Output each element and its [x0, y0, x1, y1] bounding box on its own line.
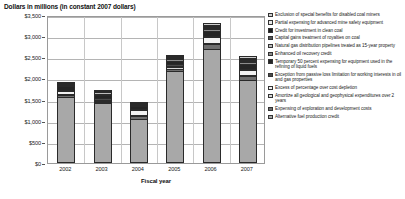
- y-axis-tick-label: $1,000: [24, 119, 41, 125]
- y-axis-tick-label: $3,500: [24, 13, 41, 19]
- bar-segment[interactable]: [239, 80, 257, 163]
- legend-item[interactable]: Temporary 50 percent expensing for equip…: [268, 59, 403, 70]
- bar-stack[interactable]: [57, 82, 75, 163]
- legend-item-label: Expensing of exploration and development…: [275, 106, 372, 111]
- bar-stack[interactable]: [203, 23, 221, 163]
- chart-title: Dollars in millions (in constant 2007 do…: [4, 3, 136, 10]
- legend-item[interactable]: Excess of percentage over cost depletion: [268, 85, 403, 90]
- y-axis-tick-mark: [42, 164, 45, 165]
- legend-swatch-icon: [268, 13, 273, 18]
- legend-item[interactable]: Enhanced oil recovery credit: [268, 51, 403, 56]
- legend-swatch-icon: [268, 86, 273, 91]
- bar-stack[interactable]: [239, 56, 257, 163]
- x-axis-tick-label: 2005: [168, 166, 180, 172]
- x-axis-tick-label: 2006: [204, 166, 216, 172]
- bar-segment[interactable]: [130, 119, 148, 163]
- legend-item-label: Exclusion of special benefits for disabl…: [275, 12, 380, 17]
- legend-item[interactable]: Exclusion of special benefits for disabl…: [268, 12, 403, 17]
- gridline: [48, 123, 264, 124]
- bar-stack[interactable]: [166, 55, 184, 163]
- bar-segment[interactable]: [57, 97, 75, 163]
- legend-item[interactable]: Exception from passive loss limitation f…: [268, 72, 403, 83]
- plot-area: [47, 16, 265, 164]
- y-axis-tick-mark: [42, 101, 45, 102]
- bar-stack[interactable]: [130, 102, 148, 163]
- legend-item[interactable]: Credit for investment in clean coal: [268, 28, 403, 33]
- x-axis-tick-label: 2002: [59, 166, 71, 172]
- legend-swatch-icon: [268, 73, 273, 78]
- y-axis-tick-label: $3,000: [24, 34, 41, 40]
- bar-segment[interactable]: [203, 49, 221, 163]
- bar-segment[interactable]: [166, 71, 184, 163]
- gridline: [48, 144, 264, 145]
- y-axis-tick-mark: [42, 16, 45, 17]
- category-separator: [157, 17, 158, 163]
- y-axis-tick-mark: [42, 122, 45, 123]
- bar-stack[interactable]: [94, 90, 112, 163]
- y-axis-tick-label: $2,000: [24, 76, 41, 82]
- legend-swatch-icon: [268, 44, 273, 49]
- legend-item-label: Alternative fuel production credit: [275, 114, 339, 119]
- y-axis-tick-mark: [42, 79, 45, 80]
- category-separator: [84, 17, 85, 163]
- x-axis-tick-label: 2004: [132, 166, 144, 172]
- category-separator: [193, 17, 194, 163]
- gridline: [48, 38, 264, 39]
- y-axis-tick-mark: [42, 58, 45, 59]
- legend-item[interactable]: Partial expensing for advanced mine safe…: [268, 20, 403, 25]
- legend-item[interactable]: Amortize all geological and geophysical …: [268, 93, 403, 104]
- legend-item-label: Natural gas distribution pipelines treat…: [275, 43, 395, 48]
- legend-swatch-icon: [268, 59, 273, 64]
- legend-item[interactable]: Natural gas distribution pipelines treat…: [268, 43, 403, 48]
- category-separator: [121, 17, 122, 163]
- y-axis-tick-label: $1,500: [24, 98, 41, 104]
- gridline: [48, 80, 264, 81]
- y-axis-tick-label: $0: [35, 161, 41, 167]
- legend-item-label: Credit for investment in clean coal: [275, 28, 342, 33]
- chart-legend: Exclusion of special benefits for disabl…: [268, 12, 403, 122]
- x-axis: 200220032004200520062007: [47, 166, 265, 178]
- legend-item-label: Capital gains treatment of royalties on …: [275, 35, 360, 40]
- legend-swatch-icon: [268, 94, 273, 99]
- y-axis: $0$500$1,000$1,500$2,000$2,500$3,000$3,5…: [0, 16, 45, 164]
- legend-item-label: Partial expensing for advanced mine safe…: [275, 20, 383, 25]
- gridline: [48, 59, 264, 60]
- legend-item-label: Exception from passive loss limitation f…: [275, 72, 403, 83]
- legend-item[interactable]: Expensing of exploration and development…: [268, 106, 403, 111]
- y-axis-tick-label: $500: [29, 140, 41, 146]
- legend-item-label: Enhanced oil recovery credit: [275, 51, 332, 56]
- legend-swatch-icon: [268, 52, 273, 57]
- category-separator: [230, 17, 231, 163]
- legend-swatch-icon: [268, 36, 273, 41]
- x-axis-tick-label: 2003: [95, 166, 107, 172]
- legend-item-label: Excess of percentage over cost depletion: [275, 85, 357, 90]
- bar-segment[interactable]: [94, 103, 112, 163]
- y-axis-tick-mark: [42, 37, 45, 38]
- x-axis-title: Fiscal year: [47, 178, 265, 184]
- legend-item[interactable]: Capital gains treatment of royalties on …: [268, 35, 403, 40]
- gridline: [48, 102, 264, 103]
- legend-item[interactable]: Alternative fuel production credit: [268, 114, 403, 119]
- x-axis-tick-label: 2007: [241, 166, 253, 172]
- legend-swatch-icon: [268, 20, 273, 25]
- legend-item-label: Amortize all geological and geophysical …: [275, 93, 403, 104]
- legend-swatch-icon: [268, 28, 273, 33]
- legend-swatch-icon: [268, 115, 273, 120]
- y-axis-tick-mark: [42, 143, 45, 144]
- legend-item-label: Temporary 50 percent expensing for equip…: [275, 59, 403, 70]
- legend-swatch-icon: [268, 107, 273, 112]
- chart-figure: Dollars in millions (in constant 2007 do…: [0, 0, 405, 199]
- y-axis-tick-label: $2,500: [24, 55, 41, 61]
- gridline: [48, 17, 264, 18]
